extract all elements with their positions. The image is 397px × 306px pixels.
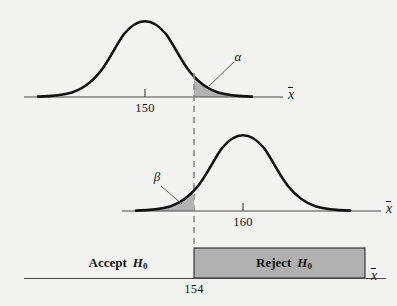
alpha-leader-line <box>209 62 234 86</box>
accept-region-label: AcceptH0 <box>89 256 148 271</box>
bottom-xbar-glyph: x <box>386 202 392 216</box>
bottom-axis-xbar-label: x <box>386 202 392 216</box>
bottom-mean-label: 160 <box>233 216 253 229</box>
reject-hypothesis-subscript: 0 <box>307 261 312 271</box>
decision-xbar-glyph: x <box>371 269 377 283</box>
critical-value-label: 154 <box>184 283 204 296</box>
decision-axis-xbar-label: x <box>371 269 377 283</box>
diagram-svg <box>0 0 397 306</box>
beta-label: β <box>154 170 160 183</box>
figure-canvas: α 150 x β 160 x AcceptH0 RejectH0 154 x <box>0 0 397 306</box>
alpha-label: α <box>235 50 242 63</box>
top-mean-label: 150 <box>135 102 155 115</box>
reject-hypothesis-symbol: H <box>297 255 307 270</box>
alternative-distribution-curve <box>136 135 350 210</box>
top-axis-xbar-label: x <box>288 88 294 102</box>
accept-hypothesis-symbol: H <box>133 255 143 270</box>
beta-leader-line <box>161 186 182 204</box>
null-distribution-curve <box>38 21 252 96</box>
accept-hypothesis-subscript: 0 <box>143 261 148 271</box>
reject-word: Reject <box>256 255 291 270</box>
accept-word: Accept <box>89 255 127 270</box>
top-xbar-glyph: x <box>288 88 294 102</box>
reject-region-label: RejectH0 <box>256 256 312 271</box>
